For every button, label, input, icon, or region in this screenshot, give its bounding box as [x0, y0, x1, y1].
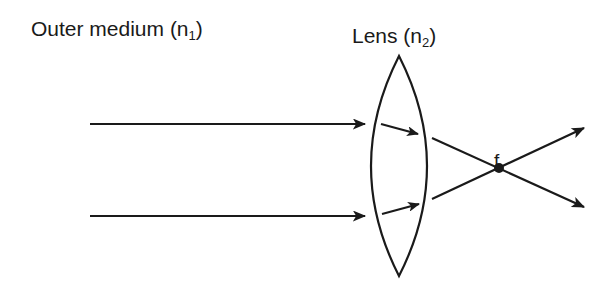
lens-diagram: Outer medium (n1) Lens (n2) f — [0, 0, 614, 295]
lens-shape — [371, 56, 427, 276]
refracted-ray-top — [381, 124, 418, 134]
diagram-graphics — [0, 0, 614, 295]
focal-point-dot — [494, 163, 504, 173]
exit-ray-top-to-bottom — [432, 138, 584, 207]
refracted-ray-bottom — [382, 204, 419, 214]
exit-ray-bottom-to-top — [432, 128, 584, 199]
